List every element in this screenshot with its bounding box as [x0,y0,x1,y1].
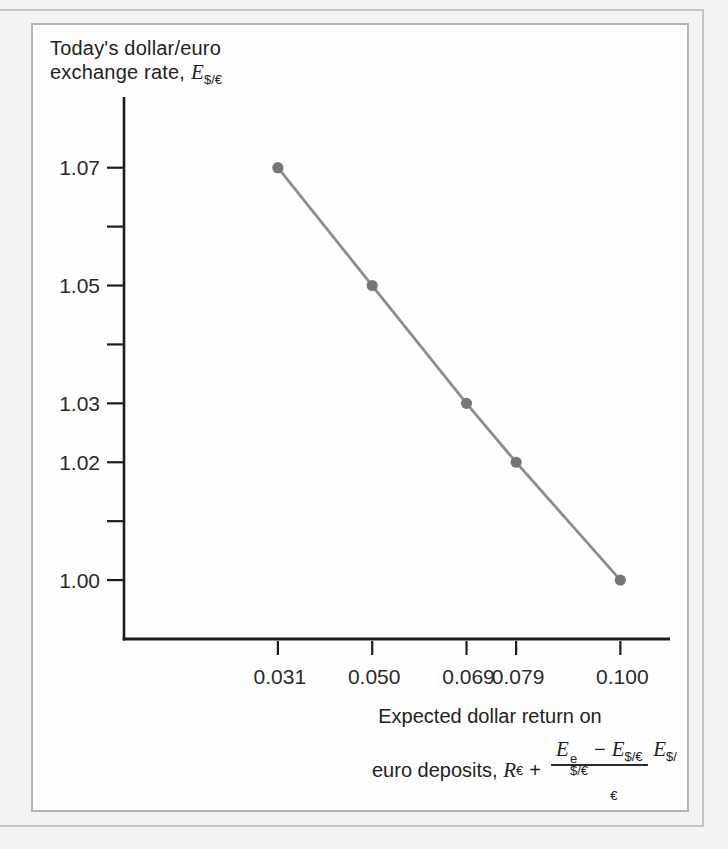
variable-E2-subscript: $/€ [625,749,643,764]
y-tick-label: 1.05 [59,274,100,297]
variable-R: R [503,758,516,783]
x-tick-label: 0.050 [348,665,401,688]
expected-return-curve [278,168,620,580]
x-tick-label: 0.031 [254,665,307,688]
variable-E2: E [612,737,625,761]
x-axis-title: Expected dollar return on euro deposits,… [320,705,680,803]
x-axis-title-line1: Expected dollar return on [320,705,680,728]
fraction-numerator: Ee$/€−E$/€ [551,738,648,766]
y-tick-label: 1.03 [59,392,100,415]
x-axis-title-line2: euro deposits, R€+ Ee$/€−E$/€ E$/€ [320,737,680,803]
y-tick-label: 1.02 [59,451,100,474]
plus-sign: + [523,759,548,782]
variable-R-subscript: € [516,763,523,778]
x-tick-label: 0.100 [596,665,649,688]
variable-E3: E [653,737,666,761]
data-point [615,574,626,585]
scanned-textbook-figure: { "figure": { "y_axis_title": { "line1":… [0,0,728,849]
data-point [272,162,283,173]
data-point [461,398,472,409]
y-tick-label: 1.07 [59,156,100,179]
minus-sign: − [588,738,612,760]
variable-Ee: E [556,737,569,761]
x-tick-label: 0.079 [492,665,545,688]
data-point [511,457,522,468]
variable-Ee-subscript: $/€ [570,765,588,777]
data-point [367,280,378,291]
x-axis-title-line2-text: euro deposits, [372,759,503,782]
y-tick-label: 1.00 [59,569,100,592]
x-tick-label: 0.069 [442,665,495,688]
variable-Ee-scripts: e$/€ [570,753,588,777]
expected-return-fraction: Ee$/€−E$/€ E$/€ [548,737,680,803]
